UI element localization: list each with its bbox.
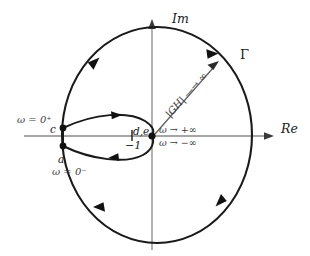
- critical-point-label: −1: [125, 139, 141, 152]
- point-de-dot: [148, 132, 155, 139]
- omega-zero-minus-label: ω = 0⁻: [52, 166, 87, 177]
- magnitude-label: |GH| —→ ∞: [163, 70, 210, 120]
- gamma-contour-curve: [62, 27, 252, 243]
- gamma-contour-group: [62, 27, 252, 243]
- gamma-contour-label: Γ: [240, 47, 249, 62]
- point-a-label: a: [58, 153, 64, 165]
- gh-locus-arrow-upper: [111, 111, 122, 119]
- magnitude-ray-arrowhead: [208, 61, 220, 70]
- real-axis-label: Re: [280, 121, 298, 136]
- point-c-label: c: [50, 123, 56, 135]
- point-de-label: d,e: [133, 125, 149, 137]
- nyquist-plot-svg: Im Re Γ ω = 0⁺ c a ω = 0⁻ −1 d,e ω → +∞ …: [0, 0, 310, 256]
- gamma-arrow-lower-left: [93, 202, 105, 212]
- omega-zero-plus-label: ω = 0⁺: [17, 114, 52, 125]
- omega-plus-infinity-label: ω → +∞: [159, 124, 197, 135]
- point-c-dot: [60, 125, 67, 132]
- real-axis-arrowhead: [264, 132, 274, 140]
- gamma-arrow-lower-right: [216, 194, 227, 207]
- point-a-dot: [60, 143, 67, 150]
- nyquist-plot-figure: Im Re Γ ω = 0⁺ c a ω = 0⁻ −1 d,e ω → +∞ …: [0, 0, 310, 256]
- imaginary-axis-label: Im: [171, 11, 189, 26]
- omega-minus-infinity-label: ω → −∞: [159, 137, 197, 148]
